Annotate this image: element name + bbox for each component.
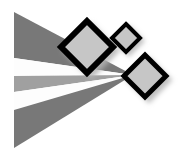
abstract-rays-and-diamonds-graphic [0,0,179,155]
artwork-canvas: Abstract Rays and Diamonds A fan of alte… [0,0,179,155]
